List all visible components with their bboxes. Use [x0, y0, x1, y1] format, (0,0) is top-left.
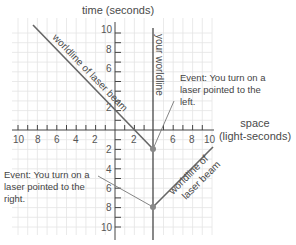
t-tick-label: 2: [106, 144, 112, 155]
x-tick-label: 8: [35, 134, 41, 145]
x-tick-label: 10: [13, 134, 25, 145]
event-left-note-line1: Event: You turn on a: [180, 72, 266, 83]
space-axis-title-line2: (light-seconds): [219, 130, 291, 142]
grid: [12, 18, 212, 235]
event-right-note-line3: right.: [4, 193, 25, 204]
event-left-dot: [150, 146, 156, 152]
x-tick-label: 8: [189, 134, 195, 145]
t-tick-label: 8: [106, 44, 112, 55]
time-axis-title: time (seconds): [82, 4, 154, 16]
spacetime-diagram: 10 8 6 4 2 2 6 8 10 10 8 6 2 2 4 6 8 10 …: [0, 0, 296, 245]
x-tick-label: 2: [92, 134, 98, 145]
space-axis-title-line1: space: [240, 117, 269, 129]
event-left-note-line2: laser pointed to the: [180, 84, 261, 95]
event-right-note-line2: laser pointed to the: [4, 181, 85, 192]
event-left-note-line3: left.: [180, 96, 195, 107]
event-right-note-line1: Event: You turn on a: [4, 169, 90, 180]
t-tick-label: 4: [106, 164, 112, 175]
x-tick-label: 2: [131, 134, 137, 145]
your-worldline-label: your worldline: [154, 34, 165, 96]
t-tick-label: 10: [101, 222, 113, 233]
x-tick-label: 4: [73, 134, 79, 145]
event-right-dot: [150, 204, 156, 210]
x-tick-label: 6: [170, 134, 176, 145]
t-tick-label: 6: [106, 183, 112, 194]
t-tick-label: 8: [106, 202, 112, 213]
t-tick-label: 10: [101, 24, 113, 35]
x-tick-label: 10: [204, 134, 216, 145]
t-tick-label: 6: [106, 63, 112, 74]
x-tick-label: 6: [54, 134, 60, 145]
space-axis-ticks: [18, 125, 202, 130]
